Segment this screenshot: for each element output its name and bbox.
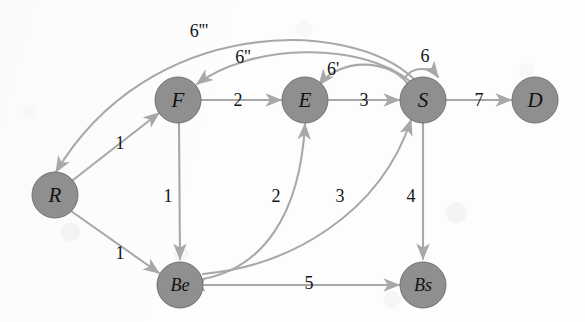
edge-weight-S-R: 6''' bbox=[190, 21, 209, 41]
node-layer: R F E S D Be bbox=[32, 77, 558, 308]
edge-weight-S-loop: 6 bbox=[421, 46, 430, 66]
edge-weight-S-E: 6' bbox=[327, 59, 339, 79]
node-label-D: D bbox=[526, 88, 542, 112]
node-D[interactable]: D bbox=[512, 77, 558, 123]
edge-weight-Be-E: 2 bbox=[272, 186, 281, 206]
edge-weight-Be-S: 3 bbox=[336, 186, 345, 206]
edge-label-layer: 1 1 2 1 3 7 4 5 2 3 6' 6'' 6''' 6 bbox=[116, 21, 484, 293]
edge-weight-F-Be: 1 bbox=[164, 186, 173, 206]
node-Bs[interactable]: Bs bbox=[400, 262, 446, 308]
edge-weight-F-E: 2 bbox=[234, 90, 243, 110]
edge-weight-E-S: 3 bbox=[360, 90, 369, 110]
node-label-F: F bbox=[171, 88, 185, 112]
edge-R-Be[interactable] bbox=[71, 211, 159, 273]
edge-weight-S-D: 7 bbox=[475, 90, 484, 110]
node-label-R: R bbox=[48, 183, 62, 207]
node-S[interactable]: S bbox=[400, 77, 446, 123]
edge-weight-S-Bs: 4 bbox=[407, 186, 416, 206]
diagram-canvas: R F E S D Be bbox=[0, 0, 585, 322]
node-label-S: S bbox=[418, 88, 429, 112]
edge-weight-Be-Bs: 5 bbox=[305, 273, 314, 293]
node-Be[interactable]: Be bbox=[157, 262, 203, 308]
edge-Be-E[interactable] bbox=[203, 124, 305, 279]
edge-weight-R-Be: 1 bbox=[116, 243, 125, 263]
node-label-E: E bbox=[298, 88, 312, 112]
node-label-Bs: Bs bbox=[414, 275, 432, 295]
node-F[interactable]: F bbox=[155, 77, 201, 123]
node-label-Be: Be bbox=[171, 275, 190, 295]
graph-diagram: R F E S D Be bbox=[0, 0, 585, 322]
node-E[interactable]: E bbox=[282, 77, 328, 123]
edge-weight-R-F: 1 bbox=[116, 133, 125, 153]
edge-F-Be[interactable] bbox=[179, 123, 180, 259]
edge-Be-S[interactable] bbox=[203, 120, 411, 274]
node-R[interactable]: R bbox=[32, 172, 78, 218]
edge-weight-S-F: 6'' bbox=[235, 47, 251, 67]
